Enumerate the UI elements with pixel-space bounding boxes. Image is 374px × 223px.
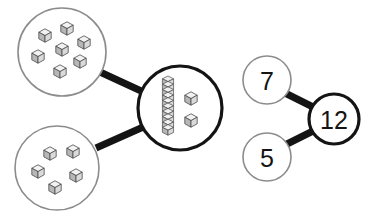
cube-icon <box>67 145 79 158</box>
cube-icon <box>54 65 66 78</box>
numeral-part-one: 7 <box>260 67 274 95</box>
cube-icon <box>49 181 61 194</box>
numeral-whole: 12 <box>320 106 348 134</box>
cube-icon <box>78 36 90 49</box>
twelve-cubes-circle-outline <box>138 66 222 150</box>
cube-icon <box>39 29 51 42</box>
cube-icon <box>185 114 197 127</box>
ten-rod-icon <box>162 76 173 135</box>
five-cubes-circle <box>15 126 99 210</box>
connector-seven-to-twelve <box>285 93 315 108</box>
diagram-canvas: 7 5 12 <box>0 0 374 223</box>
numeral-circle-part-two: 5 <box>243 133 291 181</box>
cube-icon <box>185 92 197 105</box>
cube-icon <box>61 22 73 35</box>
cube-icon <box>74 55 86 68</box>
numeral-circle-part-one: 7 <box>243 56 291 104</box>
seven-cubes-circle <box>18 8 106 96</box>
numeral-part-two: 5 <box>260 144 274 172</box>
cube-icon <box>70 169 82 182</box>
cube-icon <box>32 165 44 178</box>
number-bond-diagram: 7 5 12 <box>0 0 374 223</box>
cube-icon <box>44 147 56 160</box>
twelve-cubes-circle <box>138 66 222 150</box>
cube-icon <box>56 43 68 56</box>
connector-five-to-twelve <box>285 130 315 145</box>
cube-icon <box>32 50 44 63</box>
numeral-circle-whole: 12 <box>309 94 359 144</box>
five-cubes-circle-outline <box>15 126 99 210</box>
